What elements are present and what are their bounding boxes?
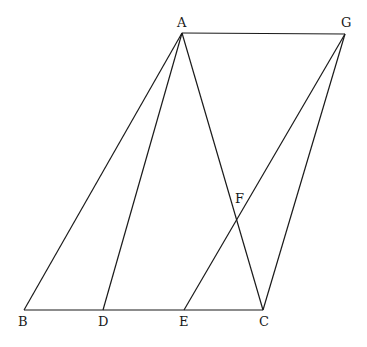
segment-AC — [182, 33, 263, 310]
label-F: F — [235, 191, 244, 206]
label-E: E — [179, 314, 189, 329]
segment-AD — [103, 33, 182, 310]
label-A: A — [176, 15, 187, 30]
label-C: C — [259, 314, 269, 329]
label-D: D — [98, 314, 108, 329]
segment-GE — [184, 34, 345, 310]
segment-AB — [24, 33, 182, 310]
segment-GC — [263, 34, 345, 310]
segment-AG — [182, 33, 345, 34]
label-B: B — [18, 314, 28, 329]
label-G: G — [341, 15, 351, 30]
geometry-diagram: A G F B D E C — [0, 0, 367, 347]
